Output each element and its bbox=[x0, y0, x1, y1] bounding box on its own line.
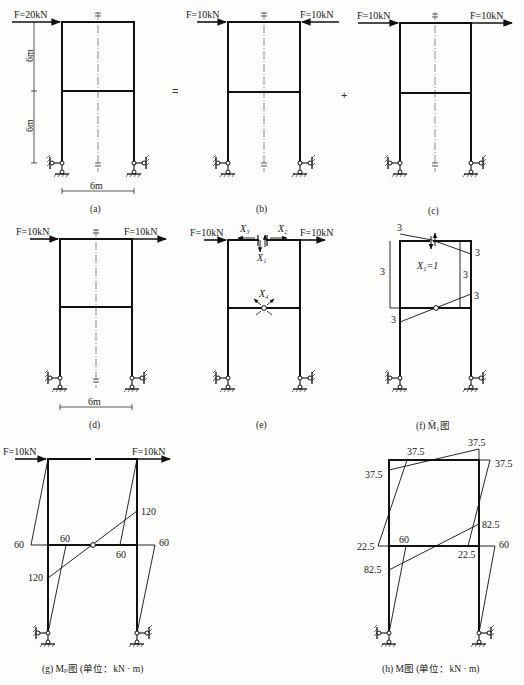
x1-label: X₁ bbox=[256, 252, 267, 263]
panel-g: F=10kN F=10kN 60 60 60 60 120 120 (g) Mₚ… bbox=[3, 446, 170, 675]
value-right-col-upper: 120 bbox=[141, 506, 156, 517]
panel-f: 3 3 3 3 3 3 X₁=1 (f) M̄₁图 bbox=[380, 222, 486, 432]
support-right-icon bbox=[126, 155, 149, 177]
dimension-upper-label: 6m bbox=[24, 49, 35, 62]
value-left-col-lower: 82.5 bbox=[364, 564, 382, 575]
support-left-icon bbox=[47, 155, 69, 177]
support-right-icon bbox=[292, 155, 315, 177]
moment-left-lower bbox=[48, 545, 66, 633]
value-mid-left-outer: 22.5 bbox=[357, 541, 375, 552]
support-right-icon bbox=[124, 370, 147, 392]
value-left-joint: 60 bbox=[14, 539, 24, 550]
support-right-icon bbox=[292, 370, 315, 392]
force-left-label: F=10kN bbox=[3, 446, 36, 457]
support-left-icon bbox=[213, 155, 235, 177]
support-right-icon bbox=[471, 625, 494, 647]
structural-analysis-figure: F=20kN 6m 6m 6m (a) = F=10kN F=10kN (b) … bbox=[0, 0, 524, 685]
moment-line bbox=[400, 234, 432, 240]
moment-line bbox=[432, 240, 471, 254]
force-right-label: F=10kN bbox=[300, 9, 333, 20]
value-top-left-beam: 37.5 bbox=[407, 446, 425, 457]
moment-left-lower bbox=[389, 546, 406, 633]
panel-b: F=10kN F=10kN (b) bbox=[186, 9, 339, 215]
unit-load-label: X₁=1 bbox=[416, 260, 438, 271]
value-right-beam: 60 bbox=[116, 549, 126, 560]
panel-caption: (d) bbox=[89, 420, 100, 431]
panel-h: 37.5 37.5 37.5 37.5 22.5 60 22.5 60 82.5… bbox=[357, 437, 513, 675]
moment-left-upper bbox=[31, 459, 48, 545]
frame bbox=[400, 23, 471, 163]
panel-caption: (e) bbox=[256, 420, 267, 431]
plus-operator: + bbox=[341, 89, 347, 101]
force-right-label: F=10kN bbox=[132, 446, 165, 457]
force-right-label: F=10kN bbox=[300, 227, 333, 238]
panel-caption: (h) M图 (单位：kN · m) bbox=[382, 663, 480, 675]
dimension-vertical bbox=[31, 22, 37, 163]
support-right-icon bbox=[463, 370, 486, 392]
dimension-lower-label: 6m bbox=[24, 119, 35, 132]
panel-caption: (g) Mₚ图 (单位：kN · m) bbox=[42, 663, 143, 675]
value-right-col: 3 bbox=[463, 269, 468, 280]
force-left-label: F=10kN bbox=[186, 9, 219, 20]
moment-left-col bbox=[390, 241, 400, 308]
value-top-right-col: 37.5 bbox=[495, 458, 513, 469]
panel-caption: (b) bbox=[256, 204, 267, 215]
support-left-icon bbox=[385, 155, 407, 177]
value-beam-left: 3 bbox=[391, 314, 396, 325]
hinge-icon bbox=[262, 306, 267, 311]
force-left-label: F=10kN bbox=[357, 10, 390, 21]
moment-right-lower bbox=[137, 545, 155, 633]
support-right-icon bbox=[129, 625, 152, 647]
panel-caption: (a) bbox=[90, 204, 101, 215]
dimension-width-label: 6m bbox=[90, 180, 103, 191]
force-right-label: F=10kN bbox=[124, 226, 157, 237]
value-left-col-lower: 120 bbox=[28, 572, 43, 583]
force-left-label: F=10kN bbox=[190, 227, 223, 238]
value-right-joint: 60 bbox=[159, 537, 169, 548]
value-top-right-peak: 37.5 bbox=[468, 437, 486, 448]
support-left-icon bbox=[374, 625, 396, 647]
moment-right-upper bbox=[120, 459, 137, 545]
support-left-icon bbox=[213, 370, 235, 392]
value-mid-right-beam: 22.5 bbox=[458, 549, 476, 560]
value-beam-right: 3 bbox=[474, 290, 479, 301]
value-right-col-lower: 82.5 bbox=[482, 519, 500, 530]
force-right-label: F=10kN bbox=[470, 10, 503, 21]
value-top-right: 3 bbox=[475, 247, 480, 258]
x2-label: X₂ bbox=[277, 223, 288, 234]
support-right-icon bbox=[463, 155, 486, 177]
panel-caption: (c) bbox=[428, 206, 439, 217]
value-left-col: 3 bbox=[380, 266, 385, 277]
moment-right-lower bbox=[479, 546, 495, 633]
force-left-label: F=10kN bbox=[16, 226, 49, 237]
support-left-icon bbox=[33, 625, 55, 647]
force-label: F=20kN bbox=[14, 9, 47, 20]
support-left-icon bbox=[45, 370, 67, 392]
panel-a: F=20kN 6m 6m 6m (a) bbox=[12, 9, 149, 215]
x3-label: X₃ bbox=[239, 223, 250, 234]
value-mid-right-outer: 60 bbox=[499, 539, 509, 550]
hinge-icon bbox=[434, 306, 439, 311]
panel-c: F=10kN F=10kN (c) bbox=[357, 10, 512, 217]
value-mid-left-beam: 60 bbox=[399, 534, 409, 545]
value-left-beam: 60 bbox=[60, 533, 70, 544]
panel-caption: (f) M̄₁图 bbox=[416, 420, 450, 432]
panel-e: F=10kN F=10kN X₃ X₂ X₁ X₄ (e) bbox=[190, 223, 333, 431]
support-left-icon bbox=[385, 370, 407, 392]
value-top-left-col: 37.5 bbox=[365, 469, 383, 480]
hinge-icon bbox=[91, 543, 96, 548]
equals-operator: = bbox=[172, 85, 178, 97]
value-top-left: 3 bbox=[397, 222, 402, 233]
panel-d: F=10kN F=10kN 6m (d) bbox=[16, 226, 166, 431]
dimension-width-label: 6m bbox=[88, 396, 101, 407]
x4-label: X₄ bbox=[258, 288, 269, 299]
